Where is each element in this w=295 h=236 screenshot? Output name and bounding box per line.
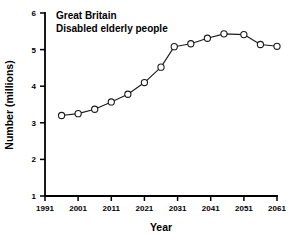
data-point	[75, 111, 81, 117]
x-tick-label-1991: 1991	[36, 204, 54, 213]
data-point	[125, 91, 131, 97]
chart-subtitle: Disabled elderly people	[56, 23, 168, 34]
chart-container: 6 5 4 3 2 1 1991 2001 2011 2021 2031 204…	[0, 0, 295, 236]
x-tick-label-2021: 2021	[136, 204, 154, 213]
y-tick-label-5: 5	[32, 46, 37, 55]
y-tick-label-1: 1	[32, 192, 37, 201]
data-point	[241, 31, 247, 37]
data-point	[58, 112, 64, 118]
x-tick-label-2031: 2031	[169, 204, 187, 213]
data-point	[141, 79, 147, 85]
x-tick-label-2011: 2011	[103, 204, 121, 213]
data-point	[158, 64, 164, 70]
y-tick-label-2: 2	[32, 155, 37, 164]
data-point	[171, 44, 177, 50]
x-tick-label-2061: 2061	[268, 204, 286, 213]
data-point	[108, 99, 114, 105]
y-tick-label-3: 3	[32, 119, 37, 128]
y-axis-title: Number (millions)	[3, 60, 15, 149]
chart-title: Great Britain	[56, 10, 117, 21]
data-point	[204, 35, 210, 41]
x-axis-title: Year	[150, 221, 172, 233]
y-axis-tick-labels: 6 5 4 3 2 1	[32, 9, 37, 201]
y-tick-label-4: 4	[32, 82, 37, 91]
x-tick-label-2001: 2001	[69, 204, 87, 213]
line-chart: 6 5 4 3 2 1 1991 2001 2011 2021 2031 204…	[0, 0, 295, 236]
series-markers	[58, 31, 280, 119]
series-line-disabled-elderly	[62, 34, 277, 116]
y-tick-label-6: 6	[32, 9, 37, 18]
x-tick-label-2041: 2041	[202, 204, 220, 213]
data-point	[188, 41, 194, 47]
data-point	[221, 31, 227, 37]
data-point	[274, 43, 280, 49]
x-tick-label-2051: 2051	[235, 204, 253, 213]
data-point	[92, 106, 98, 112]
data-point	[257, 41, 263, 47]
x-axis-tick-labels: 1991 2001 2011 2021 2031 2041 2051 2061	[36, 204, 286, 213]
